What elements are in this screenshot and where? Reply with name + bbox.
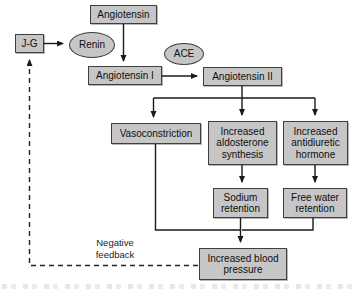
- node-increased-antidiuretic-hormone: Increased antidiuretic hormone: [283, 121, 348, 165]
- node-renin: Renin: [69, 32, 115, 58]
- raas-flowchart: Angiotensin J-G Renin ACE Angiotensin I …: [0, 0, 355, 290]
- node-ace: ACE: [164, 43, 204, 65]
- node-increased-aldosterone-synthesis: Increased aldosterone synthesis: [208, 121, 277, 165]
- node-jg: J-G: [15, 34, 44, 53]
- node-angiotensin-ii: Angiotensin II: [203, 67, 282, 86]
- branch-line: [154, 86, 316, 98]
- node-free-water-retention: Free water retention: [283, 188, 347, 218]
- negative-feedback-label: Negative feedback: [86, 237, 144, 262]
- node-vasoconstriction: Vasoconstriction: [111, 123, 201, 144]
- node-angiotensin: Angiotensin: [90, 5, 157, 24]
- dashed-negative-feedback-arrow: [30, 60, 199, 266]
- node-sodium-retention: Sodium retention: [213, 188, 268, 218]
- node-increased-blood-pressure: Increased blood pressure: [199, 248, 287, 280]
- node-angiotensin-i: Angiotensin I: [88, 66, 162, 85]
- line-free-water-merge: [242, 218, 313, 230]
- cropped-caption-remnant: [2, 284, 353, 289]
